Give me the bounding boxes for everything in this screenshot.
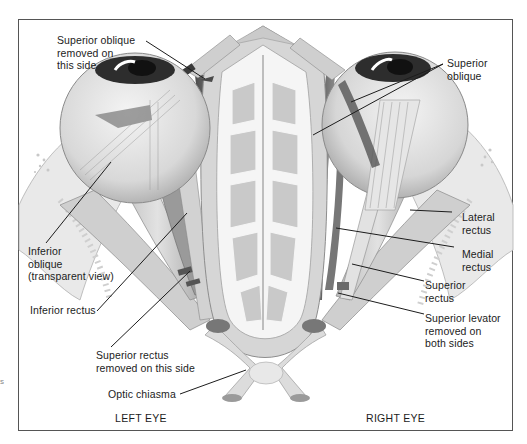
anatomy-figure: Superior oblique removed on this side Su… bbox=[0, 0, 527, 444]
label-medial-rectus: Medial rectus bbox=[462, 248, 494, 273]
label-superior-oblique: Superior oblique bbox=[447, 57, 488, 82]
label-optic-chiasma: Optic chiasma bbox=[108, 388, 176, 401]
label-lateral-rectus: Lateral rectus bbox=[462, 211, 495, 236]
label-superior-oblique-removed: Superior oblique removed on this side bbox=[57, 34, 135, 72]
label-superior-levator: Superior levator removed on both sides bbox=[425, 312, 501, 350]
caption-left-eye: LEFT EYE bbox=[115, 412, 167, 424]
ethmoid-block bbox=[201, 26, 327, 358]
stray-mark: s bbox=[0, 377, 4, 386]
label-superior-rectus: Superior rectus bbox=[425, 279, 466, 304]
label-superior-rectus-removed: Superior rectus removed on this side bbox=[96, 349, 195, 374]
label-inferior-oblique: Inferior oblique (transparent view) bbox=[28, 245, 114, 283]
label-inferior-rectus: Inferior rectus bbox=[30, 304, 96, 317]
caption-right-eye: RIGHT EYE bbox=[366, 412, 425, 424]
left-eyeball bbox=[60, 53, 210, 203]
